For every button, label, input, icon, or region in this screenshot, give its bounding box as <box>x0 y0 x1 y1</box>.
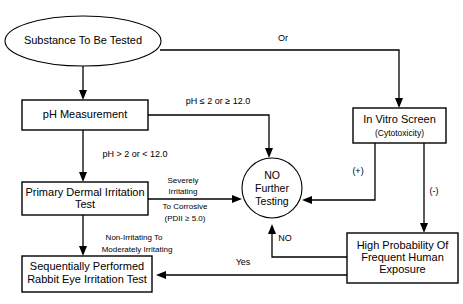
no-further-testing-label-line3: Testing <box>255 195 288 207</box>
edge-label-negative: (-) <box>430 186 439 196</box>
arrowhead-substance-to-ph <box>79 90 87 100</box>
flowchart-canvas: Substance To Be Tested pH Measurement Pr… <box>0 0 463 304</box>
high-probability-label-line2: Frequent Human <box>361 251 444 263</box>
node-high-probability-frequent-human-exposure[interactable]: High Probability Of Frequent Human Expos… <box>347 233 458 283</box>
arrowhead-invitro-positive-to-notesting <box>302 196 312 204</box>
ph-measurement-label: pH Measurement <box>43 108 127 120</box>
arrowhead-dermal-severe-to-notesting <box>232 195 242 203</box>
edge-label-mild-line2: Moderately Irritating <box>102 245 173 254</box>
arrowhead-ph-extreme-to-notesting <box>265 148 273 158</box>
edge-ph-extreme-to-notesting <box>148 115 269 151</box>
in-vitro-label: In Vitro Screen <box>363 113 436 125</box>
node-substance-to-be-tested[interactable]: Substance To Be Tested <box>5 16 161 66</box>
node-primary-dermal-irritation-test[interactable]: Primary Dermal Irritation Test <box>22 182 148 215</box>
edge-label-positive: (+) <box>352 166 363 176</box>
high-probability-label-line1: High Probability Of <box>357 239 450 251</box>
flowchart-svg: Substance To Be Tested pH Measurement Pr… <box>0 0 463 304</box>
arrowhead-highprob-yes-to-rabbit <box>156 271 166 279</box>
edge-label-ph-extreme: pH ≤ 2 or ≥ 12.0 <box>186 96 250 106</box>
edge-label-severe-line3: To Corrosive <box>163 202 208 211</box>
edge-label-ph-normal: pH > 2 or < 12.0 <box>102 149 167 159</box>
edge-label-or: Or <box>278 33 288 43</box>
high-probability-label-line3: Exposure <box>379 263 425 275</box>
arrowhead-dermal-to-rabbit <box>79 246 87 256</box>
arrowhead-invitro-negative-to-highprob <box>420 223 428 233</box>
substance-label: Substance To Be Tested <box>24 34 142 46</box>
sequential-rabbit-label-line2: Rabbit Eye Irritation Test <box>27 273 147 285</box>
edge-invitro-positive-to-notesting <box>310 143 375 200</box>
no-further-testing-label-line2: Further <box>255 182 289 194</box>
arrowhead-highprob-no-to-notesting <box>268 224 276 234</box>
sequential-rabbit-label-line1: Sequentially Performed <box>30 260 144 272</box>
arrowhead-ph-to-dermal <box>79 172 87 182</box>
edge-substance-to-invitro <box>160 50 399 101</box>
edge-label-yes: Yes <box>236 257 251 267</box>
node-no-further-testing[interactable]: NO Further Testing <box>242 158 302 218</box>
primary-dermal-label-line2: Test <box>75 198 95 210</box>
node-ph-measurement[interactable]: pH Measurement <box>22 100 148 130</box>
edge-label-severe-line2: Irritating <box>169 187 198 196</box>
in-vitro-sublabel: (Cytotoxicity) <box>375 128 424 138</box>
edge-label-mild-line1: Non-Irritating To <box>106 233 163 242</box>
edge-label-severe-line1: Severely <box>167 176 198 185</box>
primary-dermal-label-line1: Primary Dermal Irritation <box>25 186 144 198</box>
no-further-testing-label-line1: NO <box>264 169 280 181</box>
arrowhead-substance-to-invitro <box>395 98 403 108</box>
edge-label-severe-line4: (PDII ≥ 5.0) <box>165 214 206 223</box>
edge-label-no: NO <box>278 233 292 243</box>
node-sequentially-performed-rabbit-eye-irritation-test[interactable]: Sequentially Performed Rabbit Eye Irrita… <box>22 256 152 292</box>
node-in-vitro-screen[interactable]: In Vitro Screen (Cytotoxicity) <box>353 108 446 143</box>
